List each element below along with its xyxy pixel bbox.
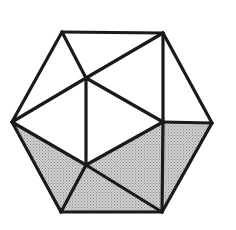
edge-hex-top: [62, 32, 163, 33]
edge-inner-right-to-right: [163, 122, 212, 123]
figure-container: [0, 0, 236, 230]
hexagon-triangulation-svg: [0, 0, 236, 230]
edge-inner-right-to-botrt: [162, 122, 163, 212]
